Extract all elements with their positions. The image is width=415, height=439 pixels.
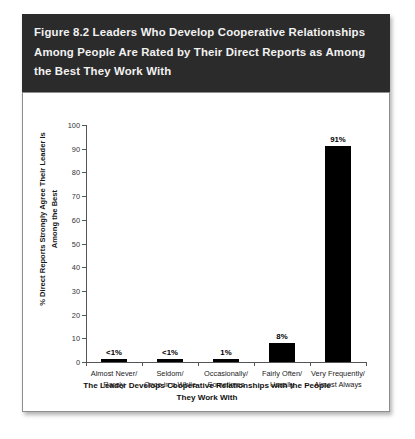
- y-tick-mark: [82, 172, 86, 173]
- y-axis-title-line-1: % Direct Reports Strongly Agree Their Le…: [37, 101, 49, 337]
- y-tick-mark: [82, 291, 86, 292]
- x-axis-title-line-1: The Leader Develops Cooperative Relation…: [45, 380, 369, 392]
- category-label-line: Very Frequently/: [311, 368, 365, 379]
- x-axis-title-line-2: They Work With: [45, 392, 369, 404]
- y-tick-label: 100: [68, 121, 80, 130]
- bar-value-label: 1%: [220, 348, 231, 357]
- bar-value-label: <1%: [162, 348, 178, 357]
- y-axis-title-line-2: Among the Best: [49, 101, 61, 337]
- y-tick-label: 30: [72, 286, 80, 295]
- bar-value-label: 91%: [330, 135, 346, 144]
- y-tick-mark: [82, 338, 86, 339]
- plot-area: 0102030405060708090100 <1%<1%1%8%91% Alm…: [86, 125, 366, 362]
- y-tick-label: 40: [72, 263, 80, 272]
- figure-title-band: Figure 8.2 Leaders Who Develop Cooperati…: [22, 14, 390, 92]
- y-tick-label: 80: [72, 168, 80, 177]
- x-tick-mark: [366, 362, 367, 366]
- y-tick-label: 0: [76, 358, 80, 367]
- y-tick-label: 20: [72, 310, 80, 319]
- y-tick-mark: [82, 267, 86, 268]
- bar-value-label: <1%: [106, 348, 122, 357]
- y-tick-mark: [82, 220, 86, 221]
- y-axis-line: [86, 125, 87, 362]
- bar: [101, 359, 127, 362]
- x-tick-mark: [86, 362, 87, 366]
- bar-value-label: 8%: [276, 332, 287, 341]
- y-tick-mark: [82, 315, 86, 316]
- x-tick-mark: [198, 362, 199, 366]
- y-tick-mark: [82, 244, 86, 245]
- y-tick-label: 70: [72, 192, 80, 201]
- y-tick-mark: [82, 125, 86, 126]
- x-axis-line: [86, 362, 366, 363]
- y-tick-label: 10: [72, 334, 80, 343]
- x-tick-mark: [310, 362, 311, 366]
- y-tick-mark: [82, 196, 86, 197]
- category-label-line: Fairly Often/: [262, 368, 302, 379]
- y-tick-label: 50: [72, 239, 80, 248]
- category-label-line: Seldom/: [144, 368, 196, 379]
- figure-title: Figure 8.2 Leaders Who Develop Cooperati…: [34, 23, 378, 82]
- x-tick-mark: [254, 362, 255, 366]
- category-label-line: Almost Never/: [91, 368, 137, 379]
- chart-panel: % Direct Reports Strongly Agree Their Le…: [22, 92, 390, 412]
- figure-container: Figure 8.2 Leaders Who Develop Cooperati…: [22, 14, 390, 412]
- bar: [325, 146, 351, 362]
- y-tick-label: 60: [72, 215, 80, 224]
- y-axis-title: % Direct Reports Strongly Agree Their Le…: [37, 101, 65, 337]
- y-tick-mark: [82, 149, 86, 150]
- category-label-line: Occasionally/: [204, 368, 248, 379]
- x-tick-mark: [142, 362, 143, 366]
- y-tick-label: 90: [72, 144, 80, 153]
- bar: [157, 359, 183, 362]
- x-axis-title: The Leader Develops Cooperative Relation…: [45, 380, 369, 404]
- bar: [269, 343, 295, 362]
- bar: [213, 359, 239, 362]
